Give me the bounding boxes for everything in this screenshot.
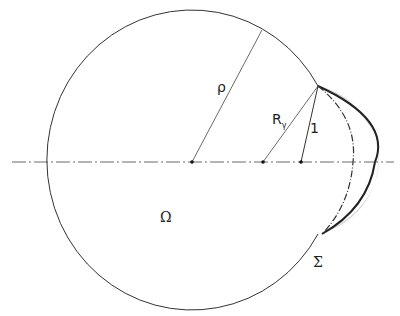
center-point-rho xyxy=(190,160,194,164)
center-point-r-gamma xyxy=(261,160,265,164)
label-rho: ρ xyxy=(217,79,226,95)
label-sigma: Σ xyxy=(313,254,323,270)
domain-boundary-arc xyxy=(47,10,318,310)
label-one: 1 xyxy=(310,120,319,136)
diagram-canvas: ρ Rγ 1 Ω Σ xyxy=(0,0,400,316)
label-omega: Ω xyxy=(160,209,172,225)
label-r-gamma: Rγ xyxy=(272,111,287,130)
center-point-unit xyxy=(299,160,303,164)
crescent-region xyxy=(318,86,379,234)
crescent-outer-arc xyxy=(318,86,378,234)
radius-rho-line xyxy=(192,30,262,162)
crescent-inner-arc xyxy=(318,86,354,234)
